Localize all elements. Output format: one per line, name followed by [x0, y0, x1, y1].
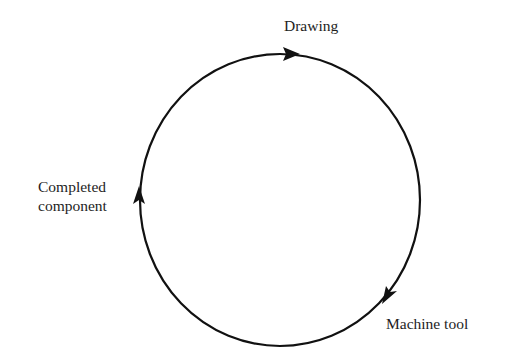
- cycle-diagram: Drawing Completed component Machine tool: [0, 0, 514, 359]
- node-label-completed-line2: component: [38, 196, 107, 215]
- node-label-machine-tool: Machine tool: [386, 314, 468, 333]
- node-label-drawing: Drawing: [284, 16, 338, 35]
- arrow-down-left-icon: [382, 286, 397, 304]
- node-label-completed-line1: Completed: [38, 177, 107, 196]
- cycle-ring: [140, 54, 420, 346]
- node-label-completed-component: Completed component: [38, 177, 107, 215]
